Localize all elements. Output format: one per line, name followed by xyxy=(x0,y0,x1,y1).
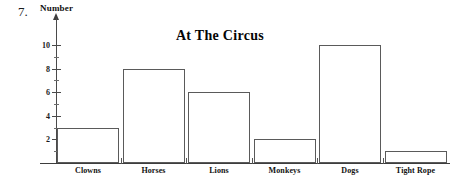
y-tick-label: 2 xyxy=(28,135,50,144)
category-label-dogs: Dogs xyxy=(319,166,381,175)
category-label-tight-rope: Tight Rope xyxy=(385,166,447,175)
y-tick-label: 8 xyxy=(28,64,50,73)
category-separator xyxy=(252,158,253,164)
y-tick-major xyxy=(52,45,61,46)
y-tick-minor xyxy=(54,80,59,81)
category-separator xyxy=(383,158,384,164)
plot-area: 246810 ClownsHorsesLionsMonkeysDogsTight… xyxy=(0,0,457,186)
bar-lions xyxy=(188,92,250,163)
bar-horses xyxy=(123,69,185,163)
category-label-monkeys: Monkeys xyxy=(254,166,316,175)
y-tick-label: 4 xyxy=(28,111,50,120)
bar-clowns xyxy=(57,128,119,163)
y-tick-label-wrap: 8 xyxy=(26,69,50,70)
y-tick-major xyxy=(52,69,61,70)
y-tick-label-wrap: 6 xyxy=(26,92,50,93)
x-axis-line xyxy=(40,163,450,164)
category-label-lions: Lions xyxy=(188,166,250,175)
y-tick-label: 6 xyxy=(28,88,50,97)
y-tick-minor xyxy=(54,104,59,105)
category-label-clowns: Clowns xyxy=(57,166,119,175)
y-tick-minor xyxy=(54,57,59,58)
category-separator xyxy=(121,158,122,164)
y-tick-major xyxy=(52,116,61,117)
bar-monkeys xyxy=(254,139,316,163)
category-separator xyxy=(186,158,187,164)
category-separator xyxy=(317,158,318,164)
category-label-horses: Horses xyxy=(123,166,185,175)
y-tick-label-wrap: 4 xyxy=(26,116,50,117)
y-tick-major xyxy=(52,92,61,93)
y-tick-label-wrap: 10 xyxy=(26,45,50,46)
bar-dogs xyxy=(319,45,381,163)
y-tick-label-wrap: 2 xyxy=(26,139,50,140)
bar-tight-rope xyxy=(385,151,447,163)
y-tick-label: 10 xyxy=(28,41,50,50)
bar-chart-screenshot: 7. Number At The Circus 246810 ClownsHor… xyxy=(0,0,457,186)
